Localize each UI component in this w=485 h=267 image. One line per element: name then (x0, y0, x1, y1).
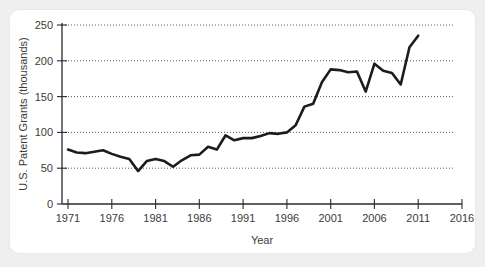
x-axis-title: Year (251, 234, 274, 246)
x-tick-label-1981: 1981 (143, 212, 167, 224)
y-tick-label-100: 100 (35, 126, 53, 138)
y-tick-label-200: 200 (35, 55, 53, 67)
x-tick-label-2011: 2011 (406, 212, 430, 224)
x-tick-label-1996: 1996 (275, 212, 299, 224)
gridlines (62, 25, 455, 168)
y-tick-label-150: 150 (35, 91, 53, 103)
y-tick-label-250: 250 (35, 19, 53, 31)
x-tick-label-1971: 1971 (56, 212, 80, 224)
x-tick-label-2006: 2006 (362, 212, 386, 224)
patent-grants-line-chart: 250 200 150 100 50 0 U.S. Patent Grants … (10, 10, 475, 253)
x-tick-label-2001: 2001 (318, 212, 342, 224)
x-tick-label-1976: 1976 (100, 212, 124, 224)
x-axis: 1971 1976 1981 1986 1991 1996 2001 2006 … (56, 199, 474, 246)
x-tick-label-1991: 1991 (231, 212, 255, 224)
y-axis: 250 200 150 100 50 0 U.S. Patent Grants … (17, 19, 67, 210)
figure-card: 250 200 150 100 50 0 U.S. Patent Grants … (10, 10, 475, 253)
y-tick-label-50: 50 (41, 162, 53, 174)
patent-grants-series-line (68, 36, 418, 171)
x-tick-label-2016: 2016 (450, 212, 474, 224)
y-axis-title: U.S. Patent Grants (thousands) (17, 37, 29, 190)
y-tick-label-0: 0 (47, 198, 53, 210)
x-tick-label-1986: 1986 (187, 212, 211, 224)
